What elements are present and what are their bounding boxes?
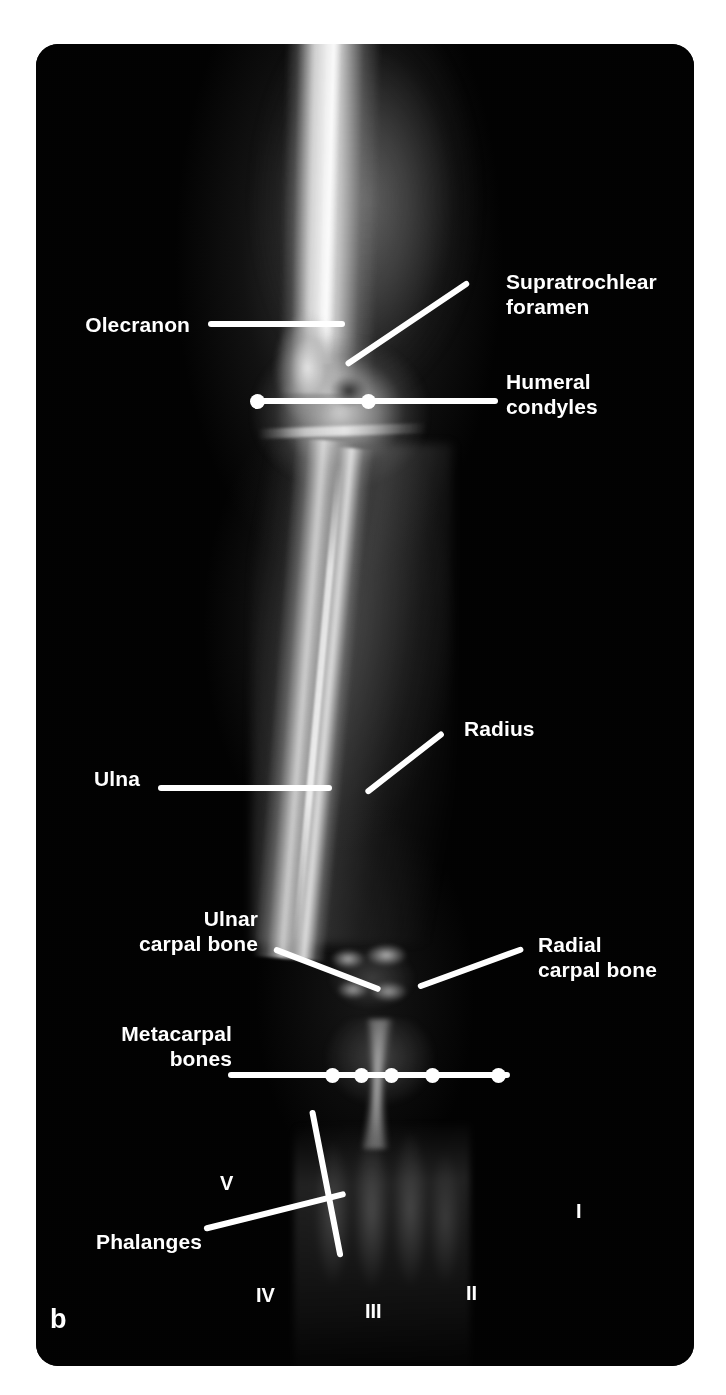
panel-letter: b	[50, 1306, 67, 1333]
label-ulnar-carpal-bone: Ulnar carpal bone	[60, 906, 258, 956]
leader-olecranon	[208, 321, 345, 327]
digit-label-ii: II	[466, 1283, 477, 1303]
leader-radius	[364, 730, 445, 795]
leader-supratrochlear-foramen	[344, 280, 470, 368]
leader-humeral-condyles	[258, 398, 498, 404]
radiograph-figure: Supratrochlear foramen Olecranon Humeral…	[0, 0, 726, 1395]
digit-label-i: I	[576, 1201, 582, 1221]
label-humeral-condyles: Humeral condyles	[506, 369, 694, 419]
label-radial-carpal-bone: Radial carpal bone	[538, 932, 694, 982]
radiograph-plate: Supratrochlear foramen Olecranon Humeral…	[36, 44, 694, 1366]
marker-humeral-condyle-medial	[250, 394, 265, 409]
label-metacarpal-bones: Metacarpal bones	[50, 1021, 232, 1071]
leader-ulnar-carpal-bone	[273, 946, 382, 992]
marker-metacarpal-4	[354, 1068, 369, 1083]
marker-metacarpal-3	[384, 1068, 399, 1083]
leader-radial-carpal-bone	[417, 946, 524, 990]
marker-humeral-condyle-lateral	[361, 394, 376, 409]
label-ulna: Ulna	[36, 766, 140, 791]
bracket-phalanges-digit-iv	[309, 1109, 344, 1257]
label-olecranon: Olecranon	[36, 312, 190, 337]
label-phalanges: Phalanges	[42, 1229, 202, 1254]
label-supratrochlear-foramen: Supratrochlear foramen	[506, 269, 694, 319]
marker-metacarpal-1	[491, 1068, 506, 1083]
digit-label-iv: IV	[256, 1285, 275, 1305]
leader-ulna	[158, 785, 332, 791]
digit-label-iii: III	[365, 1301, 382, 1321]
digit-label-v: V	[220, 1173, 233, 1193]
annotation-layer: Supratrochlear foramen Olecranon Humeral…	[36, 44, 694, 1366]
label-radius: Radius	[464, 716, 614, 741]
marker-metacarpal-5	[325, 1068, 340, 1083]
marker-metacarpal-2	[425, 1068, 440, 1083]
leader-metacarpal-bones	[228, 1072, 510, 1078]
